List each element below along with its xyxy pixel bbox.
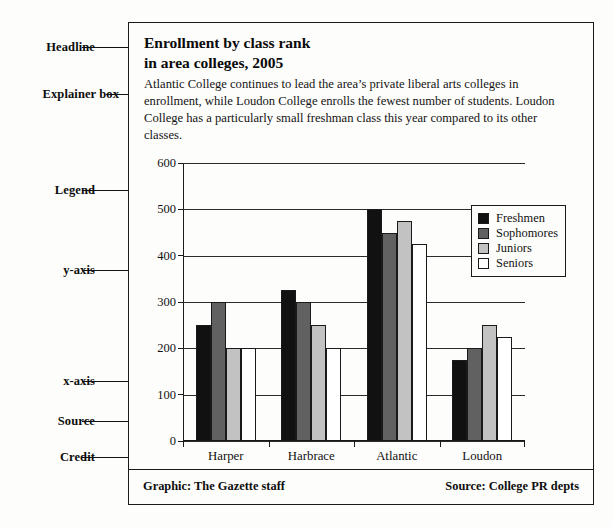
- x-tick-mark-2: [354, 441, 355, 447]
- legend-label-sophomores: Sophomores: [496, 227, 558, 239]
- bar-group-harbrace: Harbrace: [269, 163, 355, 441]
- y-tick-label-400: 400: [157, 249, 176, 262]
- legend-swatch-juniors: [478, 243, 489, 254]
- legend-swatch-freshmen: [478, 213, 489, 224]
- x-tick-mark-0: [183, 441, 184, 447]
- y-tick-label-100: 100: [157, 388, 176, 401]
- bar-atlantic-juniors: [397, 221, 412, 441]
- bar-atlantic-freshmen: [367, 209, 382, 441]
- bar-harper-juniors: [226, 348, 241, 441]
- x-axis-label-harbrace: Harbrace: [288, 449, 335, 464]
- legend-item-freshmen: Freshmen: [478, 211, 558, 226]
- y-tick-label-500: 500: [157, 203, 176, 216]
- bar-group-harper: Harper: [183, 163, 269, 441]
- bar-loudon-juniors: [482, 325, 497, 441]
- y-tick-label-200: 200: [157, 342, 176, 355]
- legend-item-seniors: Seniors: [478, 256, 558, 271]
- bar-chart: 6005004003002001000 HarperHarbraceAtlant…: [129, 23, 595, 506]
- x-axis-label-harper: Harper: [208, 449, 244, 464]
- bar-atlantic-seniors: [412, 244, 427, 441]
- bar-harbrace-seniors: [326, 348, 341, 441]
- bar-harper-freshmen: [196, 325, 211, 441]
- legend-swatch-seniors: [478, 258, 489, 269]
- bar-group-atlantic: Atlantic: [354, 163, 440, 441]
- x-tick-mark-3: [440, 441, 441, 447]
- legend-item-juniors: Juniors: [478, 241, 558, 256]
- legend-item-sophomores: Sophomores: [478, 226, 558, 241]
- bar-harbrace-sophomores: [296, 302, 311, 441]
- legend-label-freshmen: Freshmen: [496, 212, 545, 224]
- legend-label-juniors: Juniors: [496, 242, 532, 254]
- bar-harper-seniors: [241, 348, 256, 441]
- bar-harbrace-freshmen: [281, 290, 296, 441]
- bar-atlantic-sophomores: [382, 233, 397, 442]
- leader-explainer-box: [106, 94, 128, 95]
- legend: FreshmenSophomoresJuniorsSeniors: [471, 205, 566, 277]
- bar-loudon-seniors: [497, 337, 512, 441]
- x-axis-label-loudon: Loudon: [462, 449, 502, 464]
- bar-loudon-sophomores: [467, 348, 482, 441]
- x-axis-label-atlantic: Atlantic: [376, 449, 417, 464]
- legend-swatch-sophomores: [478, 228, 489, 239]
- bar-harbrace-juniors: [311, 325, 326, 441]
- leader-headline: [82, 47, 128, 48]
- footer-rule: [129, 469, 593, 470]
- x-tick-mark-end: [524, 441, 525, 447]
- y-tick-label-600: 600: [157, 157, 176, 170]
- bar-harper-sophomores: [211, 302, 226, 441]
- source-line: Source: College PR depts: [445, 479, 579, 494]
- x-tick-mark-1: [269, 441, 270, 447]
- legend-label-seniors: Seniors: [496, 257, 533, 269]
- y-tick-label-0: 0: [170, 435, 176, 448]
- bar-loudon-freshmen: [452, 360, 467, 441]
- graphic-frame: Enrollment by class rank in area college…: [128, 22, 594, 505]
- credit-line: Graphic: The Gazette staff: [143, 479, 285, 494]
- y-tick-label-300: 300: [157, 296, 176, 309]
